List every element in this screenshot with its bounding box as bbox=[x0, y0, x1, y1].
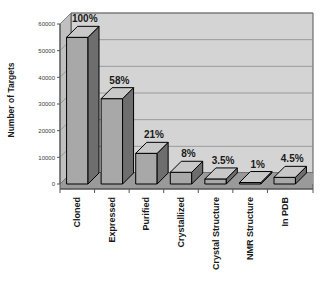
y-tick-label-30000: 30000 bbox=[38, 101, 55, 107]
y-tick-label-40000: 40000 bbox=[38, 75, 55, 81]
bar-3-front bbox=[170, 172, 191, 184]
bar-6-value-label: 4.5% bbox=[281, 153, 304, 164]
x-tick-label-6: In PDB bbox=[280, 197, 290, 227]
x-tick-label-0: Cloned bbox=[72, 197, 82, 228]
bar-1-side bbox=[123, 88, 134, 184]
bar-4-front bbox=[205, 179, 226, 184]
chart-canvas: 0100002000030000400005000060000Number of… bbox=[0, 0, 323, 289]
bar-4-value-label: 3.5% bbox=[212, 155, 235, 166]
bar-6-front bbox=[274, 177, 295, 184]
y-tick-label-20000: 20000 bbox=[38, 128, 55, 134]
bar-chart: 0100002000030000400005000060000Number of… bbox=[0, 0, 323, 289]
bar-5-value-label: 1% bbox=[250, 159, 265, 170]
y-tick-label-10000: 10000 bbox=[38, 155, 55, 161]
bar-2-front bbox=[136, 153, 157, 184]
bar-2-value-label: 21% bbox=[144, 129, 164, 140]
bar-2[interactable] bbox=[136, 142, 168, 184]
bar-0-side bbox=[88, 26, 99, 184]
bar-3-value-label: 8% bbox=[181, 148, 196, 159]
x-tick-label-1: Expressed bbox=[107, 197, 117, 243]
bar-0-front bbox=[67, 37, 88, 184]
x-tick-label-3: Crystallized bbox=[176, 197, 186, 248]
y-tick-label-0: 0 bbox=[52, 181, 56, 187]
y-tick-label-60000: 60000 bbox=[38, 21, 55, 27]
y-tick-label-50000: 50000 bbox=[38, 48, 55, 54]
bar-0-value-label: 100% bbox=[72, 13, 98, 24]
y-axis-title: Number of Targets bbox=[6, 62, 16, 137]
bar-1-value-label: 58% bbox=[109, 75, 129, 86]
bar-0[interactable] bbox=[67, 26, 99, 184]
x-tick-label-4: Crystal Structure bbox=[211, 197, 221, 270]
bar-1-front bbox=[101, 99, 122, 184]
bar-1[interactable] bbox=[101, 88, 133, 184]
x-tick-label-5: NMR Structure bbox=[245, 197, 255, 260]
x-tick-label-2: Purified bbox=[141, 197, 151, 231]
